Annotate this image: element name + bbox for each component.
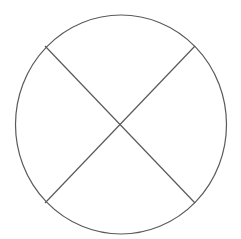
- diagram-canvas: [0, 0, 241, 239]
- diagram-background: [0, 0, 241, 239]
